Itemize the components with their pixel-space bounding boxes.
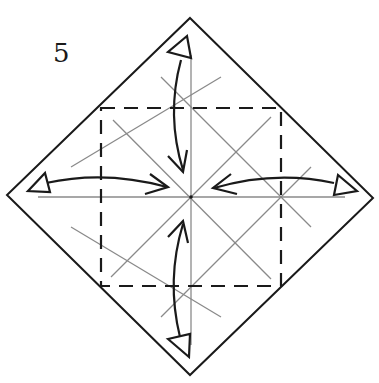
- crease-lines: [38, 55, 345, 345]
- arrow-right-shaft: [214, 178, 334, 188]
- arrow-bottom-hollow-head-icon: [168, 334, 190, 357]
- arrow-left-hollow-head-icon: [28, 173, 50, 192]
- arrow-top-shaft: [174, 60, 183, 170]
- arrow-left: [28, 173, 168, 194]
- arrow-bottom: [168, 221, 190, 357]
- crease-diamond-left: [71, 227, 221, 317]
- crease-diagonal-a: [113, 120, 271, 279]
- arrow-bottom-shaft: [174, 224, 183, 337]
- arrow-right: [213, 174, 357, 195]
- arrow-top-hollow-head-icon: [168, 36, 191, 58]
- arrow-left-shaft: [46, 177, 167, 187]
- step-number: 5: [53, 40, 70, 66]
- center-point: [189, 195, 193, 199]
